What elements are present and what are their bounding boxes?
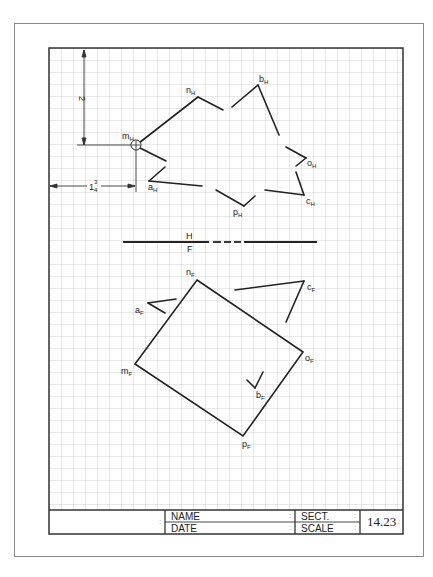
problem-number: 14.23 — [367, 514, 396, 530]
drawing-canvas: 2 1 3 4 — [0, 0, 433, 577]
scale-label: SCALE — [296, 523, 334, 535]
folding-line-label-h: H — [186, 231, 193, 241]
name-colon: : — [289, 511, 291, 520]
drawing-sheet: 2 1 3 4 — [0, 0, 433, 577]
scale-colon: : — [354, 523, 356, 532]
title-block-lines — [49, 510, 403, 534]
vertical-dimension-label: 2 — [77, 96, 87, 101]
sect-colon: : — [354, 511, 356, 520]
title-block-blank-colon: : — [159, 517, 161, 526]
sect-label: SECT. — [296, 511, 329, 523]
date-colon: : — [289, 523, 291, 532]
name-label: NAME — [166, 511, 200, 523]
folding-line-label-f: F — [187, 244, 193, 254]
problem-number-colon: : — [398, 517, 400, 526]
grid-paper — [49, 48, 403, 534]
date-label: DATE — [166, 523, 197, 535]
